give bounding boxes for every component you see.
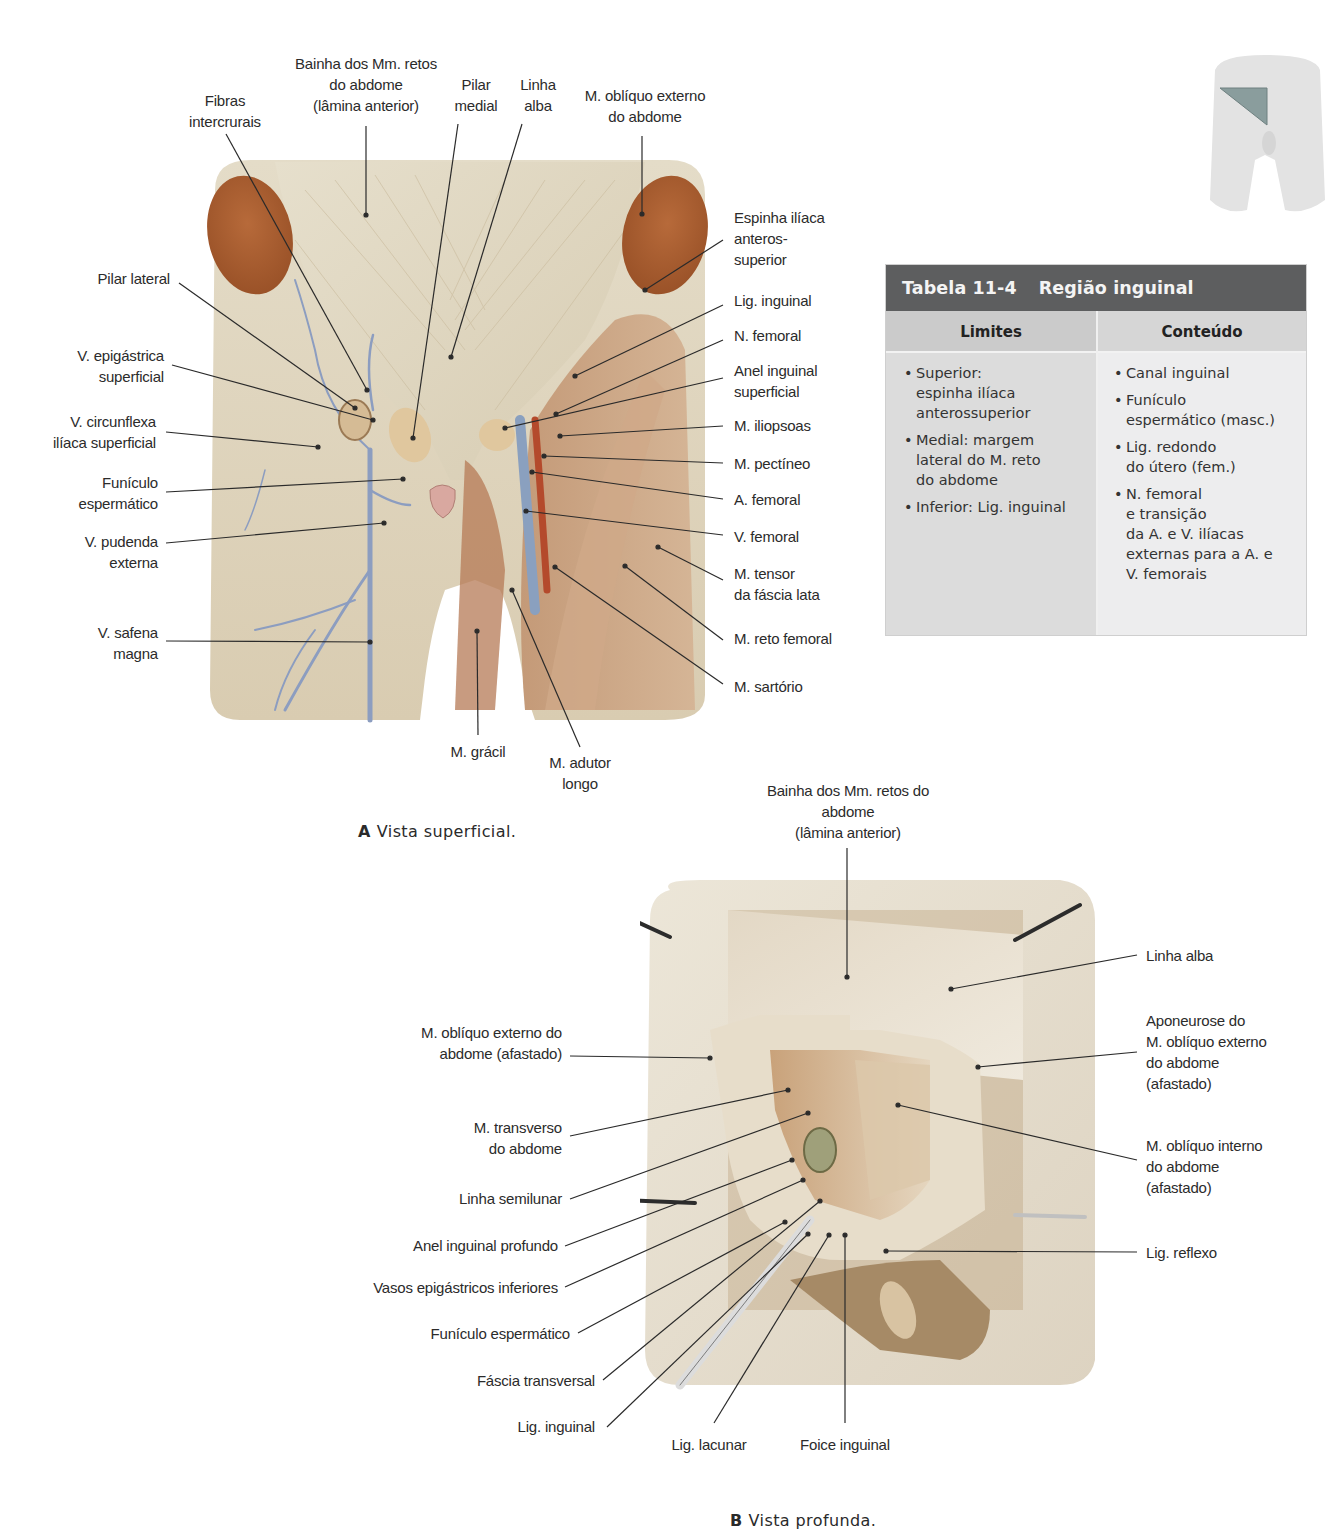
caption-a-letter: A bbox=[358, 822, 371, 841]
label-tensor-fascia: M. tensor da fáscia lata bbox=[734, 563, 864, 605]
figure-a-illustration bbox=[195, 150, 725, 730]
orientation-thumbnail bbox=[1205, 50, 1330, 220]
column-conteudo: Conteúdo Canal inguinal Funículo espermá… bbox=[1098, 311, 1306, 635]
column-header-conteudo: Conteúdo bbox=[1098, 311, 1306, 353]
label-sartorio: M. sartório bbox=[734, 676, 864, 697]
label-fascia-transversal: Fáscia transversal bbox=[400, 1370, 595, 1391]
label-obliquo-interno: M. oblíquo interno do abdome (afastado) bbox=[1146, 1135, 1306, 1198]
label-n-femoral: N. femoral bbox=[734, 325, 864, 346]
table-number: Tabela 11-4 bbox=[902, 278, 1017, 298]
label-foice-inguinal: Foice inguinal bbox=[785, 1434, 905, 1455]
label-gracil: M. grácil bbox=[432, 741, 524, 762]
label-pilar-lateral: Pilar lateral bbox=[40, 268, 170, 289]
list-item: N. femoral e transição da A. e V. ilíaca… bbox=[1116, 484, 1300, 584]
label-aponeurose-obliquo: Aponeurose do M. oblíquo externo do abdo… bbox=[1146, 1010, 1306, 1094]
label-espinha-iliaca: Espinha ilíaca anteros- superior bbox=[734, 207, 864, 270]
label-lig-inguinal-a: Lig. inguinal bbox=[734, 290, 864, 311]
label-bainha-retos-a: Bainha dos Mm. retos do abdome (lâmina a… bbox=[285, 53, 447, 116]
list-item: Canal inguinal bbox=[1116, 363, 1300, 383]
label-lig-reflexo: Lig. reflexo bbox=[1146, 1242, 1296, 1263]
label-pectineo: M. pectíneo bbox=[734, 453, 864, 474]
label-transverso: M. transverso do abdome bbox=[400, 1117, 562, 1159]
caption-b-text: Vista profunda. bbox=[749, 1511, 877, 1530]
label-reto-femoral: M. reto femoral bbox=[734, 628, 874, 649]
label-fibras-intercrurais: Fibras intercrurais bbox=[175, 90, 275, 132]
label-a-femoral: A. femoral bbox=[734, 489, 864, 510]
label-lig-inguinal-b: Lig. inguinal bbox=[440, 1416, 595, 1437]
label-adutor-longo: M. adutor longo bbox=[532, 752, 628, 794]
region-table: Tabela 11-4Região inguinal Limites Super… bbox=[885, 264, 1307, 636]
label-lig-lacunar: Lig. lacunar bbox=[654, 1434, 764, 1455]
label-funiculo-b: Funículo espermático bbox=[370, 1323, 570, 1344]
caption-b: BVista profunda. bbox=[730, 1511, 876, 1530]
list-item: Funículo espermático (masc.) bbox=[1116, 390, 1300, 430]
label-v-epigastrica: V. epigástrica superficial bbox=[20, 345, 164, 387]
label-linha-alba-a: Linha alba bbox=[512, 74, 564, 116]
label-obliquo-externo-a: M. oblíquo externo do abdome bbox=[570, 85, 720, 127]
column-limites: Limites Superior: espinha ilíaca anteros… bbox=[886, 311, 1098, 635]
label-linha-alba-b: Linha alba bbox=[1146, 945, 1296, 966]
label-v-pudenda: V. pudenda externa bbox=[20, 531, 158, 573]
column-header-limites: Limites bbox=[886, 311, 1096, 353]
label-v-safena: V. safena magna bbox=[20, 622, 158, 664]
label-iliopsoas: M. iliopsoas bbox=[734, 415, 864, 436]
label-vasos-epigastricos: Vasos epigástricos inferiores bbox=[310, 1277, 558, 1298]
table-title-bar: Tabela 11-4Região inguinal bbox=[886, 265, 1306, 311]
label-anel-profundo: Anel inguinal profundo bbox=[340, 1235, 558, 1256]
list-item: Medial: margem lateral do M. reto do abd… bbox=[906, 430, 1090, 490]
list-item: Superior: espinha ilíaca anterossuperior bbox=[906, 363, 1090, 423]
table-title: Região inguinal bbox=[1039, 278, 1194, 298]
list-item: Lig. redondo do útero (fem.) bbox=[1116, 437, 1300, 477]
list-item: Inferior: Lig. inguinal bbox=[906, 497, 1090, 517]
figure-b-illustration bbox=[640, 880, 1100, 1390]
label-linha-semilunar: Linha semilunar bbox=[380, 1188, 562, 1209]
label-funiculo-a: Funículo espermático bbox=[20, 472, 158, 514]
label-v-femoral: V. femoral bbox=[734, 526, 864, 547]
label-v-circunflexa: V. circunflexa ilíaca superficial bbox=[10, 411, 156, 453]
label-pilar-medial: Pilar medial bbox=[445, 74, 507, 116]
label-obliquo-externo-b: M. oblíquo externo do abdome (afastado) bbox=[380, 1022, 562, 1064]
label-bainha-retos-b: Bainha dos Mm. retos do abdome (lâmina a… bbox=[752, 780, 944, 843]
caption-a: AVista superficial. bbox=[358, 822, 516, 841]
caption-a-text: Vista superficial. bbox=[377, 822, 516, 841]
caption-b-letter: B bbox=[730, 1511, 743, 1530]
label-anel-superficial: Anel inguinal superficial bbox=[734, 360, 864, 402]
